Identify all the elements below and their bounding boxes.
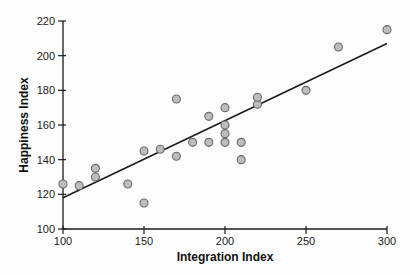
data-point: [140, 147, 148, 155]
data-point: [75, 182, 83, 190]
y-tick-label: 180: [37, 84, 55, 96]
data-point: [221, 104, 229, 112]
y-tick-label: 140: [37, 154, 55, 166]
data-point: [140, 199, 148, 207]
data-point: [383, 26, 391, 34]
x-tick-label: 200: [216, 235, 234, 247]
data-point: [334, 43, 342, 51]
y-tick-label: 100: [37, 223, 55, 235]
data-point: [221, 130, 229, 138]
y-tick-label: 160: [37, 119, 55, 131]
data-point: [189, 138, 197, 146]
plot-canvas: 100150200250300100120140160180200220: [0, 0, 410, 275]
y-tick-label: 220: [37, 15, 55, 27]
data-point: [237, 156, 245, 164]
data-point: [205, 112, 213, 120]
x-tick-label: 250: [297, 235, 315, 247]
data-point: [205, 138, 213, 146]
data-point: [59, 180, 67, 188]
data-point: [172, 95, 180, 103]
y-axis-title: Happiness Index: [17, 77, 31, 172]
data-point: [91, 173, 99, 181]
data-point: [237, 138, 245, 146]
data-point: [91, 164, 99, 172]
data-point: [172, 152, 180, 160]
data-point: [253, 93, 261, 101]
data-point: [221, 138, 229, 146]
scatter-plot-figure: 100150200250300100120140160180200220 Hap…: [0, 0, 410, 275]
x-tick-label: 100: [54, 235, 72, 247]
x-tick-label: 150: [135, 235, 153, 247]
data-point: [156, 145, 164, 153]
y-tick-label: 120: [37, 188, 55, 200]
y-tick-label: 200: [37, 50, 55, 62]
data-point: [302, 86, 310, 94]
x-axis-title: Integration Index: [63, 250, 387, 264]
data-point: [124, 180, 132, 188]
data-point: [221, 121, 229, 129]
x-tick-label: 300: [378, 235, 396, 247]
